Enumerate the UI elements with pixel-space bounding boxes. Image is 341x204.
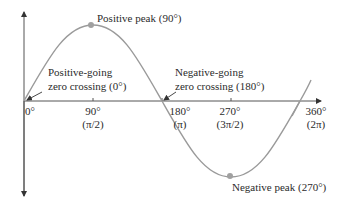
positive-peak-label: Positive peak (90°): [97, 12, 182, 25]
tick-label-90-rad: (π/2): [82, 118, 104, 131]
negative-peak-label: Negative peak (270°): [232, 181, 327, 194]
tick-label-180-rad: (π): [174, 118, 187, 131]
negative-zero-label-line2: zero crossing (180°): [175, 80, 265, 93]
tick-label-270-deg: 270°: [220, 105, 241, 117]
tick-label-180-deg: 180°: [170, 105, 191, 117]
sine-wave-diagram: Positive peak (90°) Positive-going zero …: [0, 0, 341, 204]
tick-label-360-deg: 360°: [306, 105, 327, 117]
tick-label-0-deg: 0°: [25, 105, 35, 117]
negative-peak-marker: [227, 173, 233, 179]
positive-peak-marker: [88, 22, 94, 28]
negative-zero-label-line1: Negative-going: [175, 66, 244, 78]
tick-label-90-deg: 90°: [85, 105, 100, 117]
tick-label-360-rad: (2π): [307, 118, 326, 131]
positive-zero-label-line1: Positive-going: [48, 66, 113, 78]
sine-curve-tail: [292, 101, 300, 116]
positive-zero-label-line2: zero crossing (0°): [48, 80, 127, 93]
negative-zero-arrow: [164, 92, 176, 100]
tick-label-270-rad: (3π/2): [217, 118, 244, 131]
positive-zero-arrow: [27, 92, 42, 100]
